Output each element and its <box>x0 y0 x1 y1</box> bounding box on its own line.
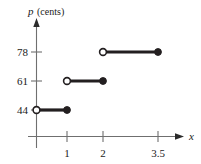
y-axis-arrow-icon <box>33 18 39 27</box>
open-endpoint-44-start <box>33 107 40 114</box>
x-tick-label-3-5: 3.5 <box>151 147 165 159</box>
open-endpoint-78-start <box>100 49 107 56</box>
y-tick-label-61: 61 <box>17 75 28 87</box>
y-tick-label-44: 44 <box>17 104 29 116</box>
closed-endpoint-61-end <box>100 78 107 85</box>
closed-endpoint-44-end <box>64 107 71 114</box>
y-axis-label-unit: (cents) <box>37 6 64 18</box>
closed-endpoint-78-end <box>155 49 162 56</box>
y-axis-label-variable: p <box>27 5 34 17</box>
y-tick-label-78: 78 <box>17 46 29 58</box>
x-axis-arrow-icon <box>175 133 184 139</box>
x-tick-label-1: 1 <box>64 147 70 159</box>
step-function-chart: p (cents) x 44 61 78 1 2 3.5 <box>0 0 201 164</box>
open-endpoint-61-start <box>64 78 71 85</box>
x-axis-label: x <box>188 130 194 142</box>
chart-canvas: p (cents) x 44 61 78 1 2 3.5 <box>0 0 201 164</box>
x-tick-label-2: 2 <box>100 147 106 159</box>
